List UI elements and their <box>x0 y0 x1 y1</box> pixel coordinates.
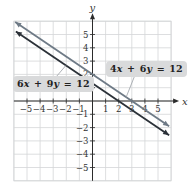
svg-text:−3: −3 <box>76 136 89 146</box>
svg-text:−5: −5 <box>20 104 33 114</box>
label-upper-line: 4x + 6y = 12 <box>106 61 187 77</box>
svg-text:−5: −5 <box>76 163 89 173</box>
svg-text:−1: −1 <box>76 109 89 119</box>
svg-text:−4: −4 <box>76 149 89 159</box>
svg-text:−3: −3 <box>46 104 59 114</box>
svg-text:−4: −4 <box>33 104 46 114</box>
svg-text:−2: −2 <box>76 123 89 133</box>
svg-text:5: 5 <box>155 104 160 114</box>
svg-text:−2: −2 <box>59 104 72 114</box>
svg-text:2: 2 <box>116 104 121 114</box>
svg-text:y: y <box>89 2 96 13</box>
svg-text:4: 4 <box>83 43 88 53</box>
svg-text:x: x <box>182 96 188 107</box>
svg-text:5: 5 <box>83 30 88 40</box>
svg-text:1: 1 <box>103 104 108 114</box>
coordinate-plane: xy −5−4−3−2−112345−5−4−3−2−112345 <box>0 0 188 190</box>
label-lower-line: 6x + 9y = 12 <box>13 76 94 92</box>
svg-text:3: 3 <box>83 56 88 66</box>
